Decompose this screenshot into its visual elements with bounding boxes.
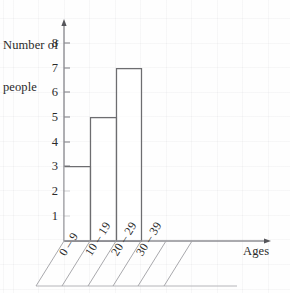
bar-20-29: [117, 69, 142, 242]
y-tick-label-6: 6: [44, 85, 58, 100]
y-axis-title: Number of people: [3, 10, 69, 122]
y-tick-label-2: 2: [44, 184, 58, 199]
y-tick-label-4: 4: [44, 135, 58, 150]
y-axis-title-line1: Number of: [3, 38, 69, 52]
y-tick-label-8: 8: [44, 36, 58, 51]
y-tick-label-5: 5: [44, 110, 58, 125]
y-tick-label-1: 1: [44, 209, 58, 224]
y-axis-title-line2: people: [3, 80, 69, 94]
x-axis-arrow-icon: [264, 238, 271, 243]
bar-group: [65, 69, 142, 242]
histogram-chart: Number of people 8 7 6 5 4 3 2 1 0 – 9 1…: [0, 0, 290, 293]
y-tick-label-3: 3: [44, 159, 58, 174]
y-tick-label-7: 7: [44, 61, 58, 76]
x-axis-title: Ages: [243, 244, 269, 258]
